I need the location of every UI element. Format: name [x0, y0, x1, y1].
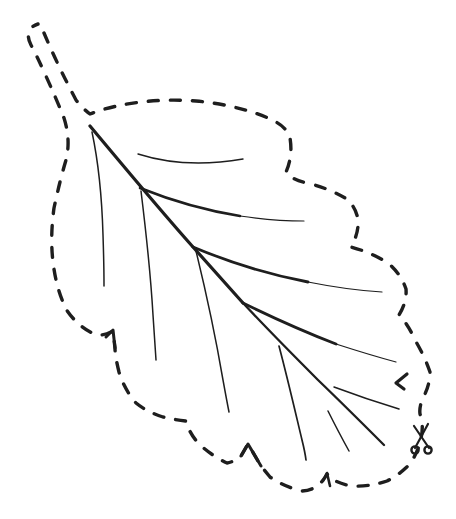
vein-right-1-tip	[240, 216, 304, 221]
vein-right-3-tip	[336, 344, 396, 362]
vein-top-small	[138, 154, 243, 163]
notch-mark-right-arrow	[396, 374, 407, 389]
vein-left-1	[92, 132, 104, 286]
midrib-upper	[90, 126, 243, 303]
scissors-handle	[411, 446, 418, 453]
vein-left-2	[141, 191, 156, 360]
leaf-cutout-drawing	[0, 0, 456, 519]
notch-mark-bottom-caret	[241, 444, 261, 466]
vein-left-3	[196, 251, 229, 412]
leaf-template-page	[0, 0, 456, 519]
vein-right-2-tip	[308, 282, 382, 292]
midrib-lower	[243, 303, 384, 445]
scissors-handle	[424, 446, 431, 453]
vein-right-3-thick	[243, 303, 336, 344]
cut-line-outline	[28, 24, 430, 491]
vein-small-bottom	[328, 411, 349, 451]
